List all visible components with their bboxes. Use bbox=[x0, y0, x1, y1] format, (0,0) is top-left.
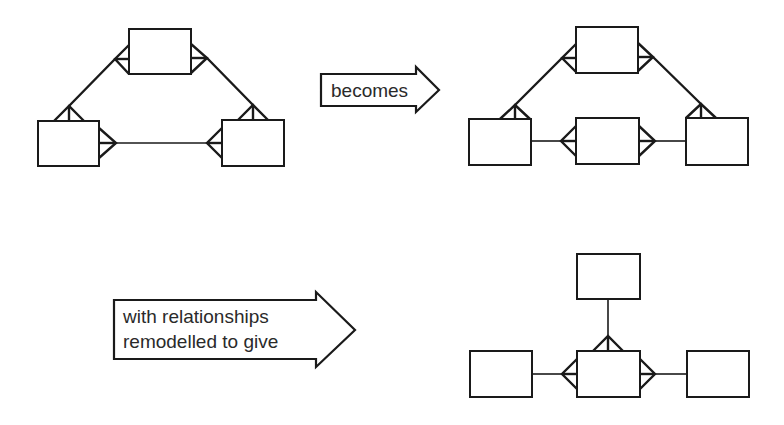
crows-foot-icon bbox=[686, 104, 716, 118]
relationship-top-left bbox=[515, 58, 562, 105]
crows-foot-icon bbox=[562, 44, 576, 72]
entity-box-left bbox=[469, 119, 531, 165]
crows-foot-icon bbox=[207, 128, 222, 158]
entity-box-right bbox=[687, 351, 749, 397]
crows-foot-icon bbox=[638, 43, 653, 71]
arrow-remodelled-label-line1: with relationships bbox=[122, 306, 269, 327]
entity-box-middle-link bbox=[576, 118, 639, 164]
crows-foot-icon bbox=[593, 336, 623, 351]
entity-box-top bbox=[577, 254, 640, 299]
entity-box-right bbox=[222, 120, 284, 166]
crows-foot-icon bbox=[639, 126, 655, 156]
diagram-intermediate bbox=[469, 27, 748, 165]
crows-foot-icon bbox=[191, 44, 207, 73]
entity-box-right bbox=[686, 118, 748, 165]
crows-foot-icon bbox=[115, 45, 129, 74]
arrow-remodelled-label-line2: remodelled to give bbox=[123, 331, 278, 352]
entity-box-top bbox=[129, 29, 191, 74]
arrow-becomes: becomes bbox=[321, 67, 439, 112]
entity-box-middle-link bbox=[577, 351, 640, 397]
arrow-remodelled: with relationships remodelled to give bbox=[114, 292, 355, 367]
arrow-becomes-label: becomes bbox=[331, 80, 408, 101]
crows-foot-icon bbox=[561, 126, 576, 156]
crows-foot-icon bbox=[562, 359, 577, 389]
diagram-original-triangle bbox=[38, 29, 284, 166]
diagram-final-star bbox=[470, 254, 749, 397]
crows-foot-icon bbox=[238, 105, 268, 120]
relationship-top-right bbox=[653, 57, 701, 104]
crows-foot-icon bbox=[54, 106, 84, 121]
entity-box-left bbox=[470, 351, 532, 397]
crows-foot-icon bbox=[640, 359, 655, 389]
entity-box-left bbox=[38, 121, 99, 166]
entity-box-top bbox=[576, 27, 638, 73]
crows-foot-icon bbox=[99, 128, 116, 158]
crows-foot-icon bbox=[500, 105, 530, 119]
relationship-top-right bbox=[207, 58, 253, 105]
relationship-top-left bbox=[69, 59, 115, 106]
diagram-canvas: becomes with relationships bbox=[0, 0, 784, 425]
